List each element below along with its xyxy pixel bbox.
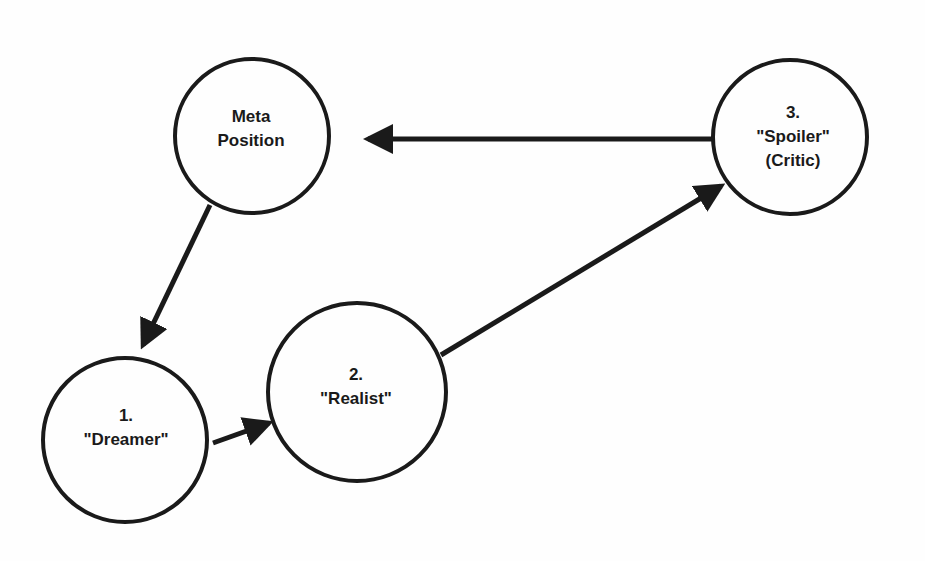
node-label-realist: 2."Realist"	[320, 363, 392, 411]
node-label-line: "Realist"	[320, 387, 392, 411]
node-label-line: "Dreamer"	[83, 428, 168, 452]
node-label-spoiler: 3."Spoiler"(Critic)	[756, 101, 830, 173]
arrow-dreamer-to-realist	[213, 423, 269, 443]
node-label-line: Position	[217, 129, 284, 153]
node-label-meta: MetaPosition	[217, 105, 284, 153]
node-label-line: Meta	[217, 105, 284, 129]
node-label-line: 2.	[320, 363, 392, 387]
node-label-line: (Critic)	[756, 149, 830, 173]
node-label-line: 3.	[756, 101, 830, 125]
diagram-canvas	[0, 0, 925, 561]
node-label-line: "Spoiler"	[756, 125, 830, 149]
arrow-meta-to-dreamer	[143, 205, 210, 345]
node-label-line: 1.	[83, 404, 168, 428]
node-label-dreamer: 1."Dreamer"	[83, 404, 168, 452]
arrow-realist-to-spoiler	[441, 186, 721, 355]
